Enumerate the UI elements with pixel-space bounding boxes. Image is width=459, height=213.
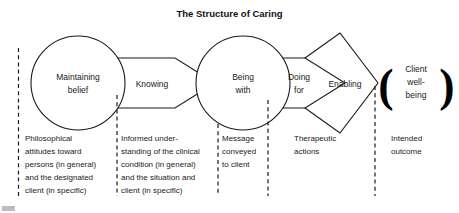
- circle-maintaining-belief: [31, 36, 125, 130]
- caption-therapeutic-actions: Therapeutic actions: [294, 134, 336, 156]
- caption-line: persons (in general): [25, 160, 96, 169]
- node-label-maintaining-belief-line2: belief: [68, 85, 89, 95]
- caption-line: outcome: [391, 147, 422, 156]
- caption-intended-outcome: Intended outcome: [391, 134, 422, 156]
- node-label-maintaining-belief-line1: Maintaining: [56, 72, 100, 82]
- caption-line: and the designated: [25, 173, 93, 182]
- caption-line: actions: [294, 147, 319, 156]
- caption-line: to client: [222, 160, 250, 169]
- caption-line: and the situation and: [121, 173, 195, 182]
- caption-line: attitudes toward: [25, 147, 81, 156]
- caption-line: Message: [222, 134, 255, 143]
- caption-line: Philosophical: [25, 134, 72, 143]
- caption-message-conveyed: Message conveyed to client: [222, 134, 256, 169]
- caption-philosophical-attitudes: Philosophical attitudes toward persons (…: [25, 134, 96, 195]
- node-label-doing-for-line2: for: [294, 85, 304, 95]
- node-label-knowing: Knowing: [136, 79, 169, 89]
- node-label-being-with-line1: Being: [232, 72, 254, 82]
- left-bracket-icon: (: [378, 60, 393, 111]
- figure-canvas: The Structure of Caring Maintaining beli…: [0, 0, 459, 213]
- caption-line: Informed under-: [121, 134, 178, 143]
- circle-being-with: [196, 36, 290, 130]
- figure-title: The Structure of Caring: [176, 8, 282, 19]
- caption-line: Intended: [391, 134, 422, 143]
- outcome-label-line2: well-: [406, 77, 425, 87]
- caption-informed-understanding: Informed under- standing of the clinical…: [121, 134, 200, 195]
- caption-line: condition (in general): [121, 160, 196, 169]
- right-bracket-icon: ): [439, 60, 454, 111]
- caption-line: conveyed: [222, 147, 256, 156]
- scan-artifact: [2, 206, 15, 211]
- caption-line: client (in specific): [121, 186, 183, 195]
- node-label-doing-for-line1: Doing: [288, 72, 310, 82]
- outcome-label-line3: being: [406, 90, 427, 100]
- outcome-label-line1: Client: [405, 64, 427, 74]
- node-label-being-with-line2: with: [234, 85, 250, 95]
- structure-of-caring-diagram: The Structure of Caring Maintaining beli…: [0, 0, 459, 213]
- caption-line: client (in specific): [25, 186, 87, 195]
- caption-line: standing of the clinical: [121, 147, 200, 156]
- node-label-enabling: Enabling: [328, 79, 361, 89]
- caption-line: Therapeutic: [294, 134, 336, 143]
